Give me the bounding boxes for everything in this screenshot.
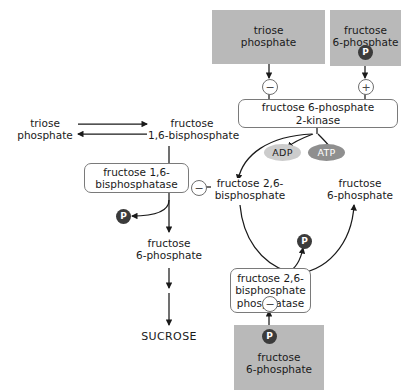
label-fructose-6-phosphate-mid: fructose 6-phosphate <box>131 238 207 262</box>
phosphate-label: P <box>362 48 369 57</box>
plus-symbol: + <box>361 82 370 93</box>
adp-label: ADP <box>272 148 292 158</box>
kinase-line1: fructose 6-phosphate <box>262 101 374 113</box>
sign-minus-fructose-2-6-bisphosphate-phosphatase: − <box>262 296 278 312</box>
enzyme-box-fructose-6-phosphate-2-kinase: fructose 6-phosphate 2-kinase <box>238 99 398 128</box>
f6p-mid-line1: fructose <box>131 238 207 250</box>
fbpase-line2: bisphosphatase <box>95 178 178 190</box>
phosphate-label: P <box>266 332 273 341</box>
label-sucrose: SUCROSE <box>131 331 207 343</box>
fbpase-line1: fructose 1,6- <box>103 166 170 178</box>
minus-symbol: − <box>194 183 203 194</box>
f26bpase-line2: bisphosphate <box>235 284 306 296</box>
phosphate-label: P <box>120 212 127 221</box>
minus-symbol: − <box>265 299 274 310</box>
fructose-6-phosphate-bottom-line2: 6-phosphate <box>246 364 312 376</box>
fbp-line1: fructose <box>148 118 236 130</box>
sign-plus-kinase: + <box>358 79 374 95</box>
phosphate-circle-cycle: P <box>297 234 312 249</box>
metabolite-box-fructose-6-phosphate-bottom: fructose 6-phosphate <box>234 325 324 390</box>
f26bp-line2: bisphosphate <box>213 190 287 202</box>
f6p-cycle-line2: 6-phosphate <box>322 190 398 202</box>
f26bp-line1: fructose 2,6- <box>213 178 287 190</box>
metabolite-box-triose-phosphate-top: triose phosphate <box>212 10 325 64</box>
arc-f26bp-to-phosphatase <box>240 205 288 272</box>
fbp-line2: 1,6-bisphosphate <box>148 130 236 142</box>
phosphate-circle-released-fbpase: P <box>116 209 131 224</box>
f6p-cycle-line1: fructose <box>322 178 398 190</box>
sucrose-text: SUCROSE <box>131 331 207 343</box>
label-triose-phosphate-left: triose phosphate <box>12 118 78 142</box>
enzyme-box-fructose-1-6-bisphosphatase: fructose 1,6- bisphosphatase <box>84 163 189 193</box>
arrow-release-phosphate <box>132 200 169 216</box>
label-fructose-6-phosphate-cycle: fructose 6-phosphate <box>322 178 398 202</box>
sign-minus-kinase: − <box>262 79 278 95</box>
phosphate-label: P <box>301 237 308 246</box>
sign-minus-fructose-1-6-bisphosphatase: − <box>191 180 207 196</box>
triose-phosphate-top-line2: phosphate <box>241 37 297 49</box>
phosphate-circle-f6p-top: P <box>358 45 373 60</box>
triose-left-line1: triose <box>12 118 78 130</box>
nucleotide-adp: ADP <box>264 144 301 161</box>
phosphate-circle-f6p-bottom: P <box>262 329 277 344</box>
f6p-mid-line2: 6-phosphate <box>131 250 207 262</box>
label-fructose-1-6-bisphosphate: fructose 1,6-bisphosphate <box>148 118 236 142</box>
minus-symbol: − <box>265 82 274 93</box>
kinase-line2: 2-kinase <box>296 114 341 126</box>
triose-left-line2: phosphate <box>12 130 78 142</box>
label-fructose-2-6-bisphosphate: fructose 2,6- bisphosphate <box>213 178 287 202</box>
atp-label: ATP <box>317 148 335 158</box>
f26bpase-line1: fructose 2,6- <box>237 272 304 284</box>
nucleotide-atp: ATP <box>308 144 345 161</box>
